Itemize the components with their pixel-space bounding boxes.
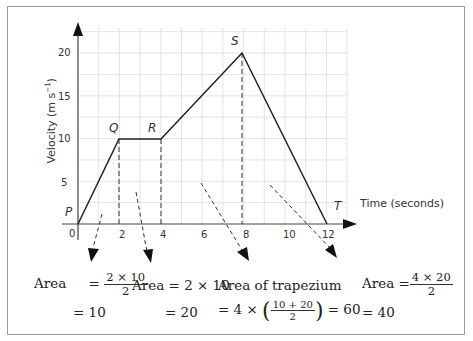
y-tick: 10 (58, 133, 71, 144)
calc-qr-result: = 20 (165, 304, 198, 320)
point-label-s: S (231, 34, 239, 48)
y-tick: 20 (58, 47, 71, 58)
arrow-head-icon (143, 249, 153, 263)
calc-qr: Area = 2 × 10 (132, 277, 230, 293)
y-tick: 5 (61, 177, 67, 188)
fraction: 4 × 20 2 (410, 271, 453, 298)
fraction: 10 + 20 2 (271, 299, 315, 322)
x-tick: 8 (243, 229, 249, 240)
y-axis-arrow-icon (73, 22, 83, 36)
y-tick: 15 (58, 91, 71, 102)
point-label-q: Q (109, 121, 118, 135)
arrow-head-icon (88, 248, 99, 262)
x-tick: 4 (160, 229, 166, 240)
calc-pq: Area = 2 × 10 2 (34, 271, 147, 298)
x-tick: 2 (119, 229, 125, 240)
calc-pq-result: = 10 (73, 304, 106, 320)
calc-st-result: = 40 (362, 304, 395, 320)
calc-st: Area = 4 × 20 2 (362, 271, 453, 298)
point-label-t: T (334, 199, 341, 213)
x-axis-title: Time (seconds) (360, 197, 444, 210)
x-tick: 12 (322, 229, 335, 240)
point-label-p: P (65, 205, 72, 219)
arrow-head-icon (237, 247, 249, 261)
calc-rs-title: Area of trapezium (218, 277, 341, 293)
x-tick: 6 (201, 229, 207, 240)
arrow-head-icon (325, 244, 337, 258)
x-tick: 0 (69, 228, 75, 239)
y-axis-title: Velocity (m s−1) (44, 66, 58, 176)
point-label-r: R (148, 121, 156, 135)
calc-rs: = 4 × ( 10 + 20 2 ) = 60 (218, 298, 361, 323)
x-axis-arrow-icon (343, 219, 357, 229)
x-tick: 10 (283, 229, 296, 240)
